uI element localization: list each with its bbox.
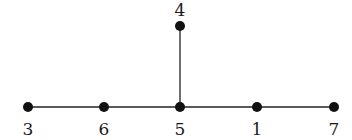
edges xyxy=(28,26,334,107)
node-7 xyxy=(329,102,339,112)
label-1: 1 xyxy=(252,119,263,139)
node-6 xyxy=(99,102,109,112)
node-1 xyxy=(252,102,262,112)
node-3 xyxy=(23,102,33,112)
labels: 3 6 5 1 7 4 xyxy=(23,0,340,139)
tree-diagram: 3 6 5 1 7 4 xyxy=(0,0,352,140)
node-5 xyxy=(175,102,185,112)
label-5: 5 xyxy=(175,119,186,139)
node-4 xyxy=(175,21,185,31)
label-3: 3 xyxy=(23,119,34,139)
label-6: 6 xyxy=(99,119,110,139)
label-4: 4 xyxy=(175,0,186,20)
label-7: 7 xyxy=(329,119,340,139)
nodes xyxy=(23,21,339,112)
